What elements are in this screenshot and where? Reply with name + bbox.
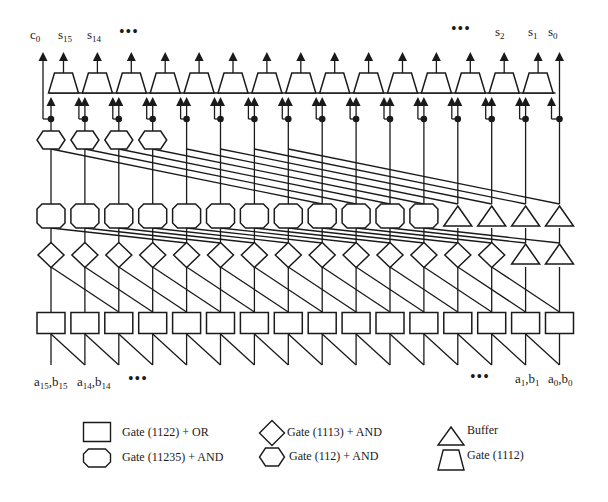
square-gate <box>240 313 268 334</box>
junction-dot <box>285 116 292 123</box>
input-wire-diagonal <box>492 334 526 365</box>
junction-dot <box>319 116 326 123</box>
arrow-head-icon <box>127 52 136 61</box>
octagon-gate <box>308 204 336 228</box>
trapezoid-gate <box>286 73 316 93</box>
trapezoid-gate <box>49 73 79 93</box>
square-gate <box>444 313 472 334</box>
input-wire-diagonal <box>356 334 390 365</box>
label-b-sub: 0 <box>568 378 573 388</box>
octagon-gate <box>71 204 99 228</box>
diamond-gate <box>174 243 200 268</box>
hexagon-gate <box>105 131 133 149</box>
legend-label-hexagon: Gate (112) + AND <box>289 450 378 463</box>
square-gate <box>308 313 336 334</box>
arrow-head-icon <box>114 97 123 106</box>
arrow-head-icon <box>364 52 373 61</box>
junction-dot <box>421 116 428 123</box>
diamond-gate <box>106 243 132 268</box>
diamond-gate <box>140 243 166 268</box>
octagon-gate <box>37 204 65 228</box>
square-gate <box>478 313 506 334</box>
input-label-a0-b0: a0,b0 <box>548 372 573 386</box>
label-sub: 0 <box>36 34 41 44</box>
diamond-gate <box>275 243 301 268</box>
arrow-head-icon <box>534 52 543 61</box>
arrow-head-icon <box>284 97 293 106</box>
buffer-triangle <box>546 244 574 264</box>
octagon-gate <box>173 204 201 228</box>
diamond-gate <box>377 243 403 268</box>
square-gate <box>37 313 65 334</box>
label-sub: 1 <box>533 31 538 41</box>
octagon-gate <box>207 204 235 228</box>
octagon-gate <box>376 204 404 228</box>
legend-diamond-icon <box>260 421 285 446</box>
diamond-gate <box>72 243 98 268</box>
arrow-head-icon <box>59 52 68 61</box>
arrow-head-icon <box>229 52 238 61</box>
buffer-triangle <box>478 206 506 226</box>
diamond-gate <box>208 243 234 268</box>
input-wire-diagonal <box>85 334 119 365</box>
arrow-head-icon <box>453 97 462 106</box>
input-wire-diagonal <box>458 334 492 365</box>
label-b-sub: 14 <box>102 381 111 391</box>
arrow-head-icon <box>195 52 204 61</box>
arrow-head-icon <box>330 52 339 61</box>
junction-dot <box>387 116 394 123</box>
diamond-gate <box>445 243 471 268</box>
hexagon-gate <box>71 131 99 149</box>
square-gate <box>342 313 370 334</box>
arrow-head-icon <box>182 97 191 106</box>
arrow-head-icon <box>500 52 509 61</box>
legend-octagon-icon <box>84 449 111 467</box>
input-wire-diagonal <box>322 334 356 365</box>
arrow-head-icon <box>521 97 530 106</box>
square-gate <box>139 313 167 334</box>
arrow-head-icon <box>466 52 475 61</box>
trapezoid-gate <box>218 73 248 93</box>
arrow-head-icon <box>161 52 170 61</box>
input-wire-diagonal <box>187 334 221 365</box>
junction-dot <box>251 116 258 123</box>
input-label-a14-b14: a14,b14 <box>77 375 111 389</box>
legend-trapezoid-icon <box>438 450 464 470</box>
arrow-head-icon <box>93 52 102 61</box>
arrow-head-icon <box>487 97 496 106</box>
input-label-a15-b15: a15,b15 <box>34 375 68 389</box>
square-gate <box>546 313 574 334</box>
label-sub: 14 <box>92 34 101 44</box>
label-a-sub: 1 <box>521 378 526 388</box>
octagon-gate <box>410 204 438 228</box>
input-wire-diagonal <box>288 334 322 365</box>
label-a-sub: 14 <box>83 381 92 391</box>
input-wire-diagonal <box>424 334 458 365</box>
diamond-gate <box>479 243 505 268</box>
junction-dot <box>217 116 224 123</box>
junction-dot <box>353 116 360 123</box>
square-gate <box>376 313 404 334</box>
octagon-gate <box>105 204 133 228</box>
arrow-head-icon <box>80 97 89 106</box>
octagon-gate <box>139 204 167 228</box>
square-gate <box>207 313 235 334</box>
junction-dot <box>116 116 123 123</box>
legend-label-square: Gate (1122) + OR <box>122 426 209 439</box>
arrow-head-icon <box>432 52 441 61</box>
output-label-s2: s2 <box>495 25 505 39</box>
output-label-s1: s1 <box>528 25 538 39</box>
octagon-gate <box>342 204 370 228</box>
arrow-head-icon <box>555 52 564 61</box>
legend-hexagon-icon <box>260 448 285 466</box>
legend-label-triangle: Buffer <box>467 424 498 437</box>
arrow-head-icon <box>419 97 428 106</box>
label-a-sub: 0 <box>554 378 559 388</box>
trapezoid-gate <box>320 73 350 93</box>
trapezoid-gate <box>252 73 282 93</box>
output-label-s0: s0 <box>548 25 558 39</box>
diamond-gate <box>411 243 437 268</box>
input-wire-diagonal <box>119 334 153 365</box>
arrow-head-icon <box>216 97 225 106</box>
buffer-triangle <box>512 206 540 226</box>
